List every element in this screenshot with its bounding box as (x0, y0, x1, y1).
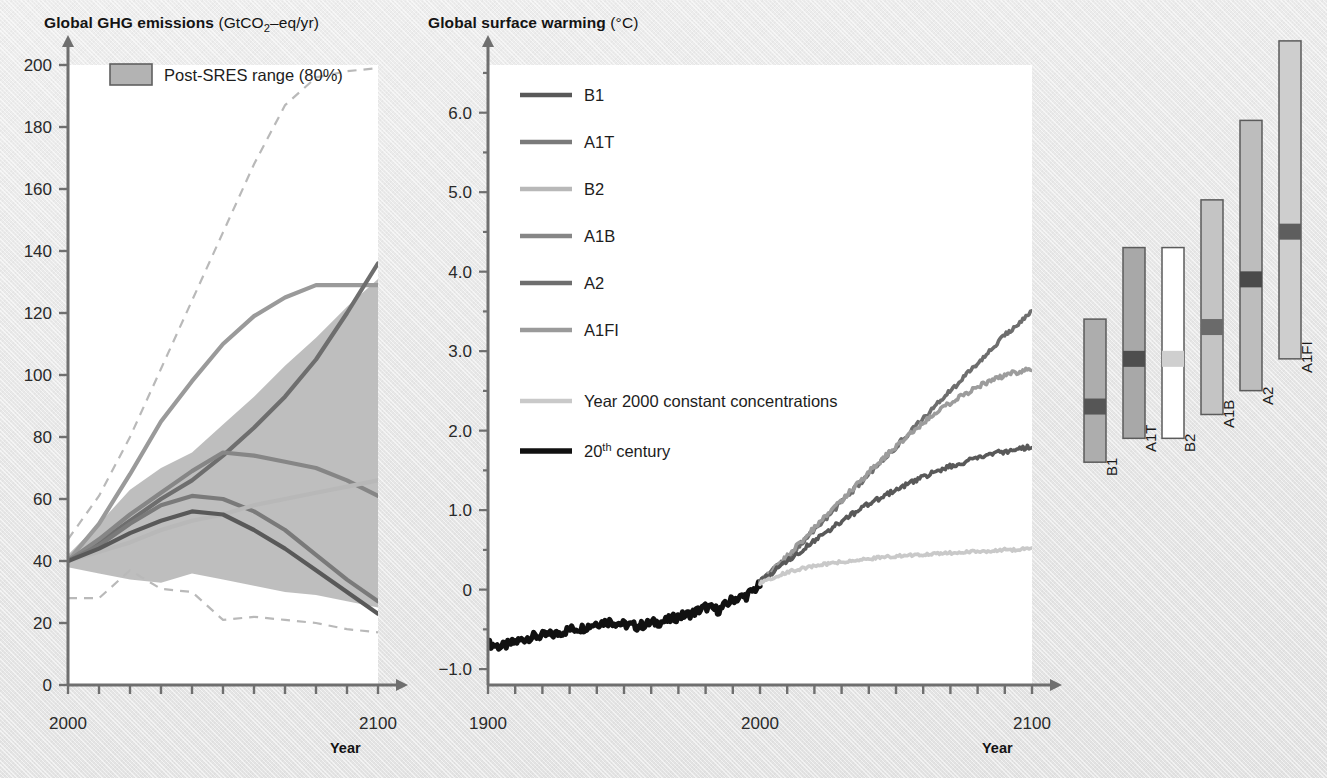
range-bar-A1FI (1279, 41, 1301, 359)
legend-label-A1B: A1B (584, 227, 615, 245)
right-y-tick-label: 3.0 (448, 342, 472, 361)
right-y-tick-label: 4.0 (448, 263, 472, 282)
bar-label-A1T: A1T (1142, 425, 1159, 453)
bar-label-A2: A2 (1259, 386, 1276, 404)
range-bar-body-A1FI (1279, 41, 1301, 359)
right-panel-title: Global surface warming (°C) (428, 14, 638, 32)
range-bar-body-A1T (1123, 248, 1145, 439)
bar-label-A1FI: A1FI (1298, 341, 1315, 373)
left-y-tick-label: 40 (33, 552, 52, 571)
legend-label-B2: B2 (584, 180, 604, 198)
left-x-tick-label: 2000 (49, 714, 87, 733)
right-y-tick-label: 1.0 (448, 501, 472, 520)
right-axis-title: Year (982, 740, 1013, 756)
legend-label-20th-century: 20th century (584, 441, 671, 460)
legend-label-Year-2000-constant-concentrations: Year 2000 constant concentrations (584, 392, 838, 410)
left-panel-title: Global GHG emissions (GtCO2–eq/yr) (44, 14, 319, 34)
right-title-unit: (°C) (610, 14, 638, 31)
post-sres-legend-label: Post-SRES range (80%) (164, 66, 343, 84)
right-y-tick-label: 2.0 (448, 422, 472, 441)
surface-warming-chart: 6.05.04.03.02.01.00−1.0190020002100B1A1T… (420, 40, 1070, 760)
right-title-bold: Global surface warming (428, 14, 606, 31)
left-y-tick-label: 180 (24, 118, 52, 137)
bar-label-B1: B1 (1103, 458, 1120, 476)
legend-label-B1: B1 (584, 86, 604, 104)
legend-label-A2: A2 (584, 274, 604, 292)
best-estimate-marker-A1FI (1279, 224, 1301, 240)
best-estimate-marker-A1T (1123, 351, 1145, 367)
range-bar-A2 (1240, 120, 1262, 390)
range-bar-body-B1 (1084, 319, 1106, 462)
post-sres-legend-swatch (110, 64, 152, 85)
best-estimate-marker-B2 (1162, 351, 1184, 367)
left-y-tick-label: 20 (33, 614, 52, 633)
bar-label-B2: B2 (1181, 434, 1198, 452)
left-title-bold: Global GHG emissions (44, 14, 214, 31)
range-bar-body-A1B (1201, 200, 1223, 415)
range-bar-A1B (1201, 200, 1223, 415)
right-x-axis-arrow (1050, 679, 1062, 691)
left-y-axis-arrow (62, 35, 74, 47)
left-y-tick-label: 140 (24, 242, 52, 261)
right-x-tick-label: 2100 (1013, 714, 1051, 733)
left-y-tick-label: 120 (24, 304, 52, 323)
right-y-tick-label: 0 (463, 581, 472, 600)
ghg-emissions-chart: 20018016014012010080604020020002100Post-… (0, 40, 420, 760)
left-title-unit: (GtCO2–eq/yr) (218, 14, 319, 31)
right-y-tick-label: −1.0 (438, 660, 472, 679)
best-estimate-marker-A2 (1240, 271, 1262, 287)
range-bar-B1 (1084, 319, 1106, 462)
left-y-tick-label: 60 (33, 490, 52, 509)
bar-label-A1B: A1B (1220, 400, 1237, 428)
left-y-tick-label: 200 (24, 56, 52, 75)
left-x-tick-label: 2100 (359, 714, 397, 733)
best-estimate-marker-A1B (1201, 319, 1223, 335)
left-x-axis-arrow (396, 679, 408, 691)
right-y-axis-arrow (482, 35, 494, 47)
left-y-tick-label: 0 (43, 676, 52, 695)
right-x-tick-label: 1900 (469, 714, 507, 733)
range-bar-body-A2 (1240, 120, 1262, 390)
left-y-tick-label: 80 (33, 428, 52, 447)
range-bar-body-B2 (1162, 248, 1184, 439)
range-bar-B2 (1162, 248, 1184, 439)
legend-label-A1FI: A1FI (584, 321, 619, 339)
legend-label-A1T: A1T (584, 133, 614, 151)
left-y-tick-label: 100 (24, 366, 52, 385)
range-bar-A1T (1123, 248, 1145, 439)
scenario-range-bars: B1A1TB2A1BA2A1FI (1070, 0, 1327, 778)
left-axis-title: Year (330, 740, 361, 756)
right-y-tick-label: 5.0 (448, 183, 472, 202)
right-y-tick-label: 6.0 (448, 104, 472, 123)
left-y-tick-label: 160 (24, 180, 52, 199)
right-x-tick-label: 2000 (741, 714, 779, 733)
best-estimate-marker-B1 (1084, 399, 1106, 415)
